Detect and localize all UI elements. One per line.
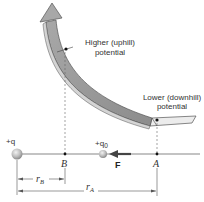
ramp-point-a bbox=[155, 118, 158, 121]
r-a-label: rA bbox=[86, 181, 94, 193]
point-b-dot bbox=[64, 153, 67, 156]
lower-potential-label: Lower (downhill) bbox=[143, 93, 202, 102]
test-charge-label: +q0 bbox=[95, 139, 108, 149]
force-arrow bbox=[109, 150, 131, 158]
r-b-label: rB bbox=[36, 173, 44, 185]
test-charge-sphere bbox=[99, 150, 107, 158]
force-label: F bbox=[115, 160, 121, 170]
potential-hill-diagram: Higher (uphill) potential Lower (downhil… bbox=[0, 0, 204, 202]
point-a-label: A bbox=[152, 158, 160, 169]
ramp-point-b bbox=[64, 47, 67, 50]
source-charge-label: +q bbox=[6, 137, 15, 146]
point-b-label: B bbox=[61, 158, 67, 169]
r-b-dimension: rB bbox=[18, 173, 64, 185]
point-a-dot bbox=[156, 153, 159, 156]
higher-potential-label-line2: potential bbox=[95, 48, 125, 57]
source-charge-sphere bbox=[12, 149, 23, 160]
lower-potential-label-line2: potential bbox=[157, 102, 187, 111]
higher-potential-label: Higher (uphill) bbox=[85, 38, 135, 47]
